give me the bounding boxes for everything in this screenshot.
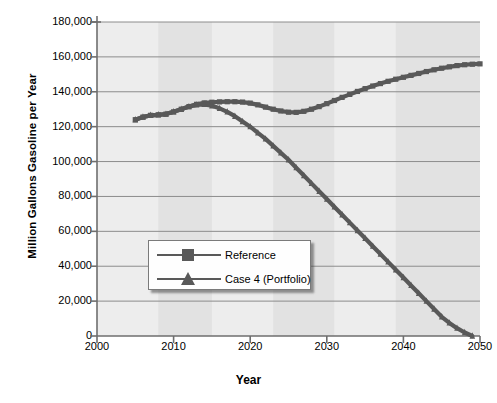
gasoline-consumption-chart: Million Gallons Gasoline per Year Year 0… (0, 0, 497, 403)
legend-label-case4: Case 4 (Portfolio) (225, 273, 311, 285)
legend-label-reference: Reference (225, 249, 276, 261)
square-marker-icon (155, 245, 225, 265)
plot-area (0, 0, 497, 403)
chart-legend: Reference Case 4 (Portfolio) (148, 240, 311, 290)
legend-item-case4: Case 4 (Portfolio) (149, 266, 310, 291)
legend-item-reference: Reference (149, 242, 310, 267)
triangle-marker-icon (155, 269, 225, 289)
